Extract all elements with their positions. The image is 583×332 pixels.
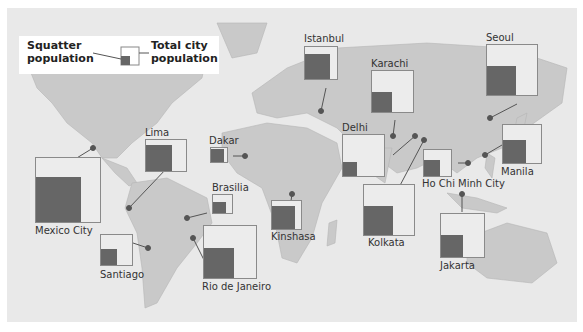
legend-total-label-2: population	[151, 53, 218, 65]
city-label: Manila	[501, 166, 534, 177]
legend-symbol-icon	[89, 42, 149, 70]
map-panel: Squatter population Total city populatio…	[7, 8, 577, 322]
city-label: Brasilia	[212, 182, 249, 193]
city-label: Jakarta	[440, 260, 475, 271]
legend-total-label-1: Total city	[151, 40, 208, 52]
city-label: Kinshasa	[271, 231, 316, 242]
city-label: Dakar	[209, 135, 239, 146]
city-label: Mexico City	[35, 225, 93, 236]
city-label: Rio de Janeiro	[202, 281, 271, 292]
legend-squatter-label-1: Squatter	[27, 40, 81, 52]
city-label: Istanbul	[304, 33, 344, 44]
city-label: Santiago	[100, 269, 144, 280]
city-label: Karachi	[371, 58, 408, 69]
legend: Squatter population Total city populatio…	[19, 36, 219, 74]
city-label: Delhi	[342, 122, 368, 133]
legend-squatter-label-2: population	[27, 53, 94, 65]
city-label: Seoul	[486, 32, 514, 43]
city-label: Lima	[145, 127, 169, 138]
south-america-shape	[125, 178, 212, 308]
city-label: Ho Chi Minh City	[422, 178, 505, 189]
city-label: Kolkata	[368, 237, 405, 248]
